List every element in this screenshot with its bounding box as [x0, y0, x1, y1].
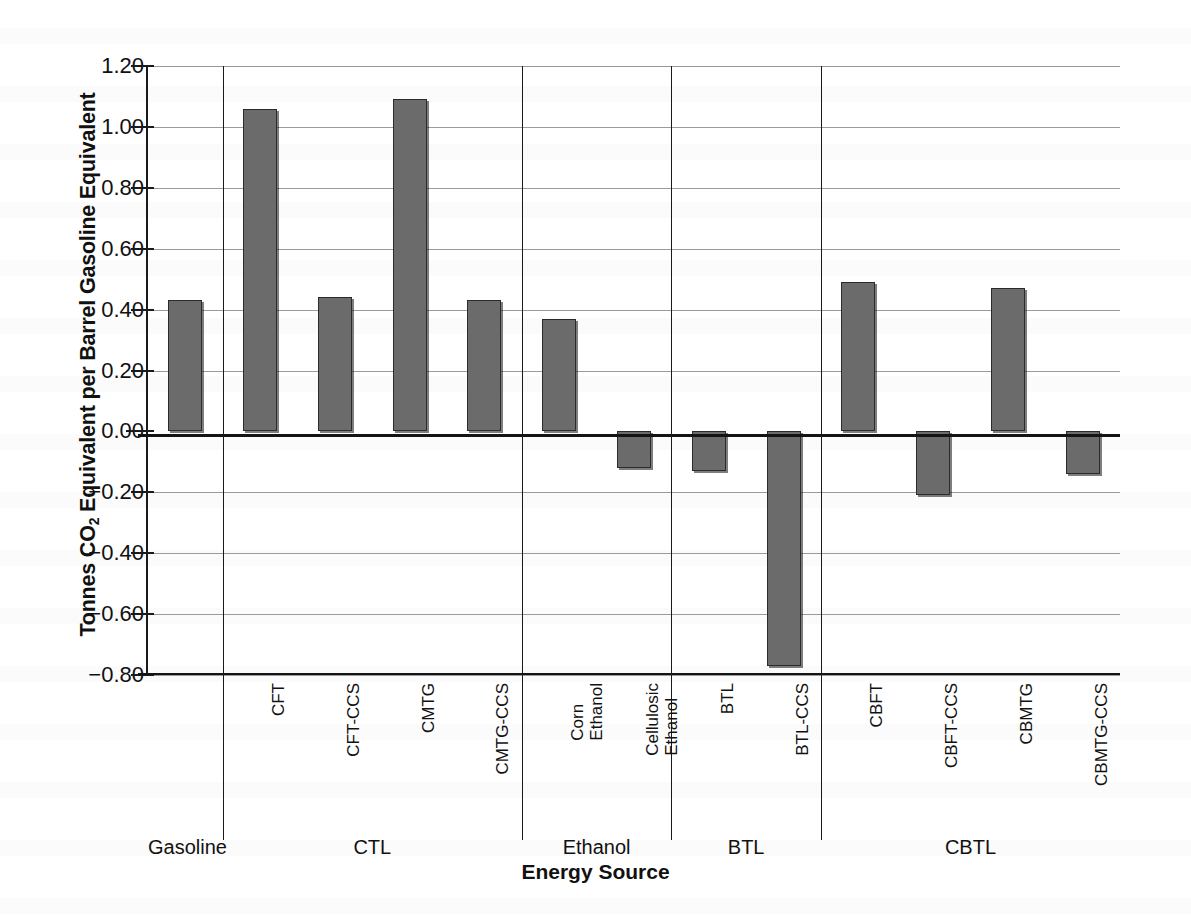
- group-separator: [223, 66, 224, 840]
- x-axis-category-label: CMTG: [419, 683, 438, 733]
- gridline: [148, 371, 1120, 372]
- y-axis-tick-labels: 1.201.000.800.600.400.200.00−0.20−0.40−0…: [52, 0, 144, 922]
- gridline: [148, 127, 1120, 128]
- y-axis-tick: [131, 309, 154, 311]
- group-separator: [821, 66, 822, 840]
- x-axis-category-label: Corn Ethanol: [568, 683, 606, 741]
- bar: [1066, 431, 1100, 474]
- gridline: [148, 553, 1120, 554]
- y-axis-tick: [131, 126, 154, 128]
- gridline: [148, 492, 1120, 493]
- y-axis-tick: [126, 430, 154, 432]
- x-axis-category-label: CBMTG-CCS: [1092, 683, 1111, 786]
- bar: [393, 99, 427, 431]
- gridline: [148, 675, 1120, 676]
- y-axis-tick: [131, 552, 154, 554]
- x-axis-category-label: CMTG-CCS: [493, 683, 512, 775]
- x-axis-group-label: Gasoline: [148, 836, 223, 859]
- x-axis-group-label: Ethanol: [522, 836, 672, 859]
- x-axis-category-label: BTL: [718, 683, 737, 714]
- gridline: [148, 249, 1120, 250]
- x-axis-group-label: BTL: [671, 836, 821, 859]
- bar: [318, 297, 352, 431]
- bar: [916, 431, 950, 495]
- x-axis-category-label: CBFT-CCS: [942, 683, 961, 768]
- x-axis-category-label: CFT-CCS: [344, 683, 363, 757]
- x-axis-line: [138, 673, 1120, 675]
- bar: [767, 431, 801, 665]
- gridline: [148, 310, 1120, 311]
- x-axis-group-label: CTL: [223, 836, 522, 859]
- y-axis-tick: [131, 613, 154, 615]
- bar: [168, 300, 202, 431]
- x-axis-category-label: BTL-CCS: [793, 683, 812, 756]
- zero-baseline: [138, 434, 1120, 437]
- bar-chart: Tonnes CO2 Equivalent per Barrel Gasolin…: [0, 0, 1191, 922]
- bar: [467, 300, 501, 431]
- bar: [692, 431, 726, 471]
- plot-area: CFTCFT-CCSCMTGCMTG-CCSCorn EthanolCellul…: [148, 66, 1120, 675]
- y-axis-tick: [131, 187, 154, 189]
- gridline: [148, 188, 1120, 189]
- bar: [841, 282, 875, 431]
- x-axis-category-label: CFT: [269, 683, 288, 716]
- bar: [542, 319, 576, 432]
- gridline: [148, 614, 1120, 615]
- x-axis-category-label: CBMTG: [1017, 683, 1036, 744]
- x-axis-group-label: CBTL: [821, 836, 1120, 859]
- y-axis-tick: [131, 370, 154, 372]
- x-axis-title: Energy Source: [0, 860, 1191, 884]
- group-separator: [522, 66, 523, 840]
- x-axis-category-label: CBFT: [867, 683, 886, 727]
- gridline: [148, 66, 1120, 67]
- y-axis-tick: [131, 491, 154, 493]
- bar: [243, 109, 277, 432]
- y-axis-tick: [131, 248, 154, 250]
- x-axis-category-label: Cellulosic Ethanol: [643, 683, 681, 756]
- bar: [991, 288, 1025, 431]
- y-axis-tick: [131, 65, 154, 67]
